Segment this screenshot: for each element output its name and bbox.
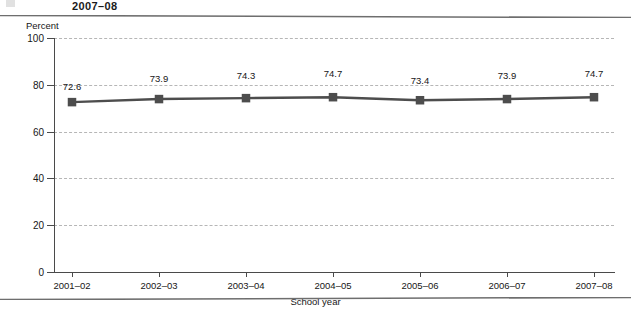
point-label-3: 74.7 bbox=[324, 68, 343, 79]
data-point-marker-2 bbox=[242, 94, 251, 103]
running-head: 2007–08 bbox=[72, 0, 118, 12]
data-point-marker-4 bbox=[416, 96, 425, 105]
footer-rule-ink bbox=[0, 297, 631, 300]
data-point-marker-5 bbox=[503, 95, 512, 104]
data-point-marker-0 bbox=[68, 98, 77, 107]
point-label-5: 73.9 bbox=[498, 70, 517, 81]
point-label-2: 74.3 bbox=[237, 70, 256, 81]
line-chart: Percent 100 80 60 40 20 0 bbox=[0, 18, 631, 296]
data-point-marker-1 bbox=[155, 95, 164, 104]
point-label-0: 72.6 bbox=[63, 81, 82, 92]
point-label-4: 73.4 bbox=[411, 75, 430, 86]
point-label-6: 74.7 bbox=[585, 68, 604, 79]
document-page: 2007–08 Percent 100 80 60 40 bbox=[0, 0, 631, 313]
point-label-1: 73.9 bbox=[150, 73, 169, 84]
data-point-marker-3 bbox=[329, 93, 338, 102]
footer-rule bbox=[0, 297, 631, 300]
data-point-marker-6 bbox=[590, 93, 599, 102]
scan-corner-mark bbox=[6, 0, 15, 7]
data-series bbox=[0, 18, 631, 296]
